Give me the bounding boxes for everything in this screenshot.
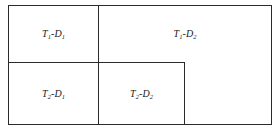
divider-vertical-inner <box>184 62 185 125</box>
partition-diagram: T1-D1 T1-D2 T2-D1 T2-D2 <box>0 0 280 132</box>
divider-vertical-main <box>98 5 99 125</box>
diagram-outer-frame <box>8 5 272 125</box>
divider-horizontal-main <box>8 62 185 63</box>
